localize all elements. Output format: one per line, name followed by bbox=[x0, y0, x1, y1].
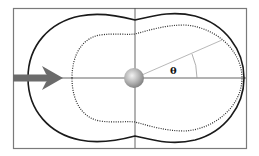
scatterer-sphere bbox=[124, 68, 144, 88]
theta-label: θ bbox=[170, 65, 177, 76]
angle-arc bbox=[192, 54, 197, 78]
angle-ray bbox=[135, 40, 222, 78]
scattering-pattern-diagram: θ bbox=[0, 0, 259, 156]
incident-arrow bbox=[13, 66, 63, 90]
